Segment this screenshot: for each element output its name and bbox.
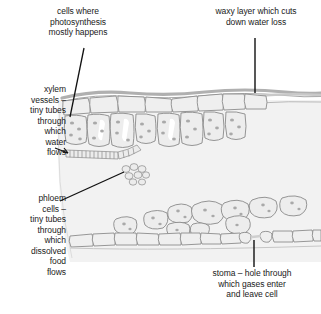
stoma-pore [252, 236, 261, 237]
spongy-cell [280, 196, 307, 216]
lower-epidermis-cell [114, 233, 137, 245]
label-phloem-cells: phloem cells – tiny tubes through which … [4, 193, 66, 277]
palisade-cell [180, 112, 203, 145]
lower-epidermis-cell [158, 233, 181, 245]
spongy-cell [144, 211, 168, 230]
lower-epidermis-cell [180, 233, 201, 245]
epidermis-cell [90, 96, 119, 113]
palisade-cell [135, 114, 156, 144]
phloem-cell [130, 164, 138, 171]
phloem-cell [138, 179, 145, 185]
leaf-cross-section-diagram: cells where photosynthesis mostly happen… [0, 0, 321, 314]
palisade-cell [157, 113, 180, 146]
palisade-cell [225, 112, 246, 140]
guard-cell-left [239, 232, 251, 243]
epidermis-cell [222, 94, 246, 110]
phloem-cell [125, 173, 133, 180]
lower-epidermis-cell [220, 233, 241, 244]
lower-epidermis-cell [69, 234, 93, 247]
palisade-cell [203, 112, 224, 141]
stoma-gap [252, 236, 261, 237]
palisade-cell [64, 115, 87, 144]
phloem-cell [134, 172, 142, 179]
epidermis-cell [63, 98, 91, 115]
epidermis-cell [197, 94, 224, 111]
phloem-cell [129, 179, 137, 185]
spongy-cell [249, 197, 277, 218]
label-stoma: stoma – hole through which gases enter a… [186, 268, 318, 300]
phloem-cell [142, 172, 149, 178]
spongy-cell [168, 204, 193, 223]
guard-cell-right [260, 231, 272, 242]
lower-epidermis-cell [292, 230, 313, 242]
label-photosynthesis-cells: cells where photosynthesis mostly happen… [28, 6, 128, 38]
phloem-cell [122, 166, 130, 173]
lower-epidermis-cell [136, 233, 159, 245]
lower-epidermis-cell [92, 233, 115, 246]
palisade-cell [87, 114, 110, 146]
lower-epidermis-cell [200, 233, 221, 244]
label-xylem-vessels: xylem vessels – tiny tubes through which… [4, 84, 66, 158]
label-waxy-layer: waxy layer which cuts down water loss [196, 6, 316, 27]
palisade-cell [110, 113, 134, 147]
lower-epidermis-cell [272, 231, 293, 242]
epidermis-cell [171, 96, 199, 112]
epidermis-cell [145, 97, 173, 112]
epidermis-cell [118, 96, 146, 112]
lower-epidermis-cell [312, 230, 321, 241]
spongy-cell [114, 217, 137, 235]
epidermis-cell [244, 94, 267, 109]
spongy-cell [192, 201, 225, 224]
